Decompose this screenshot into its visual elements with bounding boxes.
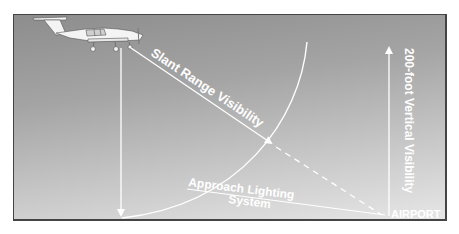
vertical-visibility-label: 200-foot Vertical Visibility xyxy=(402,48,416,193)
airplane-icon xyxy=(33,17,143,51)
slant-range-arrow xyxy=(131,48,271,143)
slant-range-label: Slant Range Visibility xyxy=(148,45,267,131)
visibility-diagram: Slant Range Visibility 200-foot Vertical… xyxy=(0,0,459,234)
airport-label: AIRPORT xyxy=(391,208,441,220)
slant-range-dashed-line xyxy=(276,147,382,215)
